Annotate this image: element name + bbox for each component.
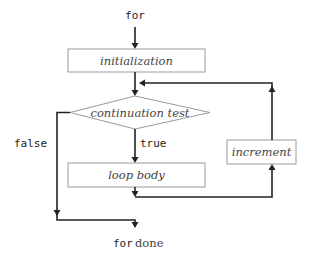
continuation-test-label: continuation test	[91, 106, 190, 120]
arrow-start-to-init	[132, 27, 139, 49]
continuation-test-node: continuation test	[70, 96, 210, 129]
false-label: false	[14, 137, 47, 150]
start-label: for	[125, 9, 145, 22]
increment-node: increment	[227, 140, 296, 164]
loop-body-node: loop body	[68, 163, 205, 187]
end-label: for done	[113, 236, 164, 250]
loop-body-label: loop body	[108, 168, 165, 182]
true-label: true	[140, 137, 167, 150]
increment-label: increment	[232, 145, 292, 159]
arrow-true	[132, 129, 139, 163]
initialization-node: initialization	[68, 49, 205, 72]
flowchart: for initialization continuation test tru…	[0, 0, 310, 261]
initialization-label: initialization	[100, 54, 173, 68]
end-label-keyword: for	[113, 237, 133, 250]
arrow-init-to-test	[132, 72, 139, 96]
end-label-text: done	[135, 236, 164, 250]
